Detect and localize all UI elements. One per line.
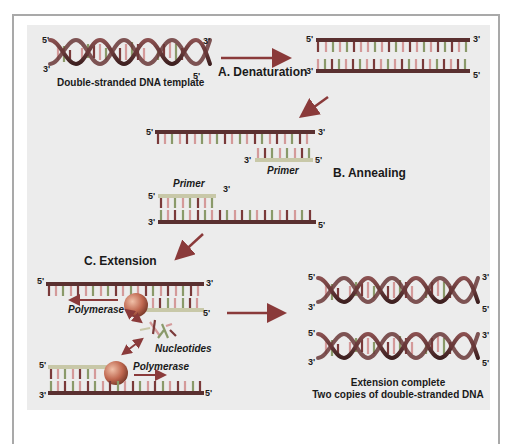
extension-upper-primer-5: 5' [203,308,210,318]
step-c-label: C. Extension [84,254,157,268]
template-caption: Double-stranded DNA template [57,77,205,88]
denatured-bottom-3: 3' [306,66,313,76]
annealing-lower-3: 3' [148,217,155,227]
annealing-upper-primer-5: 5' [315,155,322,165]
extension-upper-template [46,282,204,296]
annealing-upper-primer-3: 3' [244,155,251,165]
copy1-3-right: 3' [482,272,489,282]
copy1-5-left: 5' [308,272,315,282]
denatured-top-3: 3' [473,34,480,44]
polymerase-label-upper: Polymerase [68,304,125,315]
nucleotide-arrow-lower [124,340,141,353]
nucleotides-cluster [140,320,176,338]
copy1-5-right: 5' [482,304,489,314]
copy2-3-right: 3' [482,330,489,340]
copy2-3-left: 3' [308,357,315,367]
extension-lower-primer-5: 5' [39,360,46,370]
arrow-to-annealing [303,97,328,115]
annealing-lower-primer [158,194,216,208]
annealing-lower-template [158,210,316,224]
annealing-upper-5: 5' [146,127,153,137]
denatured-top-strand [316,38,470,52]
annealing-upper-template [155,130,315,144]
primer-label-upper: Primer [267,165,300,176]
step-a-label: A. Denaturation [218,65,307,79]
primer-label-lower: Primer [173,178,206,189]
dna-copy-helix-2 [318,334,478,358]
template-end-5-top: 5' [42,35,49,45]
polymerase-upper [124,293,148,317]
nucleotides-label: Nucleotides [155,343,212,354]
denatured-top-5: 5' [306,34,313,44]
complete-caption-line1: Extension complete [351,377,446,388]
dna-template-helix [50,40,210,64]
template-end-3-bottom: 3' [43,64,50,74]
extension-upper-5: 5' [37,276,44,286]
annealing-lower-5: 5' [318,220,325,230]
annealing-lower-primer-5: 5' [148,191,155,201]
copy2-5-left: 5' [308,328,315,338]
denatured-bottom-strand [316,59,470,73]
extension-upper-3: 3' [206,278,213,288]
extension-upper-new-strand [146,298,204,312]
denatured-bottom-5: 5' [473,70,480,80]
template-end-3-top: 3' [203,36,210,46]
complete-caption-line2: Two copies of double-stranded DNA [312,389,483,400]
step-b-label: B. Annealing [333,166,406,180]
arrow-to-extension [178,234,203,257]
extension-lower-5: 5' [205,388,212,398]
copy1-3-left: 3' [308,302,315,312]
extension-lower-3: 3' [39,390,46,400]
extension-lower-new-strand [48,365,108,379]
dna-copy-helix-1 [318,278,478,302]
extension-lower-template [48,381,204,395]
annealing-upper-3: 3' [318,127,325,137]
polymerase-label-lower: Polymerase [133,361,190,372]
annealing-lower-primer-3: 3' [223,184,230,194]
annealing-upper-primer [255,148,313,162]
copy2-5-right: 5' [482,358,489,368]
